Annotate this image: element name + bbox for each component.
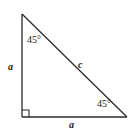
angle-label-bottom-right: 45° bbox=[97, 99, 111, 109]
angle-label-top: 45° bbox=[27, 35, 41, 45]
right-angle-marker-icon bbox=[22, 110, 29, 117]
side-label-hypotenuse: c bbox=[78, 60, 82, 70]
side-label-bottom-leg: a bbox=[69, 120, 74, 130]
triangle-drawing bbox=[0, 0, 135, 137]
side-label-left-leg: a bbox=[8, 62, 13, 72]
triangle-hypotenuse bbox=[22, 14, 127, 117]
geometry-figure: 45° 45° a c a bbox=[0, 0, 135, 137]
